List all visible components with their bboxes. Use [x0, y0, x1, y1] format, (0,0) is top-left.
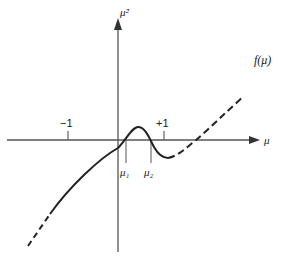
y-axis-arrow-icon — [114, 18, 122, 30]
mu1-label: μ₁ — [119, 166, 130, 178]
tick-plus-one-label: +1 — [156, 117, 169, 129]
mu2-label: μ₂ — [143, 166, 154, 178]
curve-upper-dashed — [168, 96, 244, 158]
tick-minus-one-label: −1 — [60, 117, 73, 129]
curve-label: f(μ) — [254, 53, 271, 67]
x-axis-arrow-icon — [249, 136, 260, 144]
phase-diagram: μ μ̇² −1 +1 μ₁ μ₂ f(μ) — [0, 0, 284, 258]
curve-lower-dashed — [28, 214, 50, 246]
y-axis-label: μ̇² — [119, 6, 130, 18]
x-axis-label: μ — [263, 134, 270, 146]
